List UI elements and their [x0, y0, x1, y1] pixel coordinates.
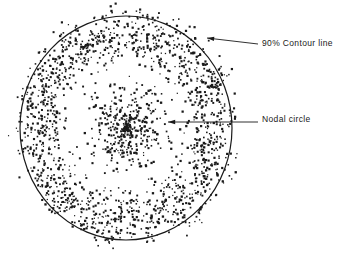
annotation-label-contour-line: 90% Contour line: [262, 39, 333, 48]
figure-container: 90% Contour line Nodal circle: [0, 0, 347, 258]
annotation-label-nodal-circle: Nodal circle: [262, 115, 311, 124]
